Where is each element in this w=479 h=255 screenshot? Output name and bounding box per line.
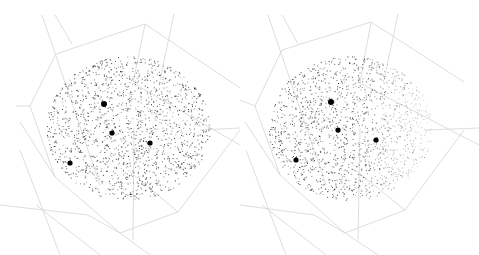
wireframe-edge <box>178 130 240 212</box>
wireframe-edge <box>255 106 280 175</box>
wireframe-edge <box>345 210 405 233</box>
wireframe-edge <box>120 233 150 255</box>
wireframe-edge <box>282 15 298 44</box>
wireframe-edge <box>145 24 240 88</box>
right-view-canvas <box>240 0 479 255</box>
wireframe-edge <box>345 233 378 255</box>
left-view-panel <box>0 0 240 255</box>
highlight-marker <box>293 157 298 162</box>
wireframe-edge <box>160 14 174 80</box>
wireframe-edge <box>20 150 60 255</box>
wireframe-edge <box>55 15 72 44</box>
wireframe-edge <box>240 205 314 215</box>
highlight-marker <box>67 160 72 165</box>
wireframe-edge <box>42 15 100 185</box>
wireframe-edge <box>314 215 345 233</box>
wireframe-edge <box>30 54 56 106</box>
highlight-markers <box>67 101 152 166</box>
wireframe-edge <box>133 128 134 240</box>
wireframe-edge <box>255 50 282 106</box>
highlight-marker <box>147 140 152 145</box>
wireframe-edges <box>0 14 240 255</box>
wireframe-edge <box>384 14 398 80</box>
point-cloud <box>47 57 211 200</box>
wireframe-edge <box>280 175 345 233</box>
wireframe-edge <box>20 122 55 177</box>
wireframe-edge <box>405 130 464 210</box>
wireframe-edge <box>133 83 240 145</box>
highlight-marker <box>109 130 114 135</box>
wireframe-edge <box>282 22 371 50</box>
wireframe-edge <box>30 106 55 177</box>
highlight-marker <box>328 99 334 105</box>
wireframe-edge <box>200 128 240 130</box>
wireframe-edge <box>355 170 405 210</box>
left-view-canvas <box>0 0 240 255</box>
stereo-figure <box>0 0 479 255</box>
point-cloud <box>269 56 432 201</box>
wireframe-edge <box>240 100 255 106</box>
right-view-panel <box>240 0 479 255</box>
wireframe-edge <box>425 128 479 130</box>
highlight-marker <box>101 101 107 107</box>
wireframe-edge <box>371 22 464 82</box>
wireframe-edge <box>55 177 120 233</box>
highlight-marker <box>373 137 378 142</box>
wireframe-edge <box>120 212 178 233</box>
wireframe-edge <box>360 22 371 83</box>
highlight-marker <box>335 127 340 132</box>
highlight-markers <box>293 99 378 163</box>
wireframe-edges <box>240 14 479 255</box>
wireframe-edge <box>245 122 280 175</box>
wireframe-edge <box>246 150 286 255</box>
wireframe-edge <box>88 215 120 233</box>
